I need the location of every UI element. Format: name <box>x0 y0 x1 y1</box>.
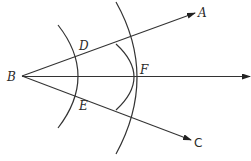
label-f: F <box>139 63 149 77</box>
ray-bc <box>22 76 191 140</box>
label-e: E <box>78 99 88 113</box>
ray-ba <box>22 13 195 76</box>
angle-bisector-diagram: B A D E F C <box>0 0 251 161</box>
label-d: D <box>78 39 89 53</box>
label-a: A <box>197 6 207 20</box>
label-c: C <box>194 136 202 150</box>
label-b: B <box>6 70 16 84</box>
